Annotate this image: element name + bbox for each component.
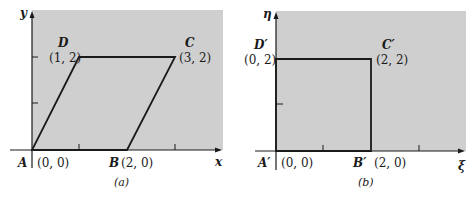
- vertex-d-prime-coord: (0, 2): [244, 53, 276, 67]
- vertex-b-prime-name: B′: [352, 156, 367, 170]
- figure-b: η ξ A′ (0, 0) B′ (2, 0) C′ (2, 2) D′ (0,…: [244, 7, 466, 189]
- vertex-b-coord: (2, 0): [121, 156, 153, 170]
- vertex-d-name: D: [57, 36, 69, 50]
- figure-b-caption: (b): [358, 176, 374, 189]
- vertex-a-name: A: [17, 156, 27, 170]
- vertex-d-coord: (1, 2): [49, 51, 81, 65]
- vertex-a-coord: (0, 0): [37, 156, 69, 170]
- figure-b-xi-label: ξ: [458, 159, 466, 173]
- vertex-c-coord: (3, 2): [179, 51, 211, 65]
- vertex-a-prime-name: A′: [257, 156, 271, 170]
- vertex-b-name: B: [108, 156, 119, 170]
- figure-a-caption: (a): [114, 176, 129, 189]
- vertex-c-prime-name: C′: [382, 38, 396, 52]
- figure-a: y x A (0, 0) B (2, 0) C (3, 2) D (1, 2) …: [10, 6, 223, 189]
- figure-b-eta-label: η: [263, 7, 272, 21]
- vertex-c-prime-coord: (2, 2): [376, 53, 408, 67]
- figure-a-background: [32, 10, 223, 150]
- figure-a-y-label: y: [19, 6, 28, 20]
- diagram-canvas: y x A (0, 0) B (2, 0) C (3, 2) D (1, 2) …: [0, 0, 476, 203]
- vertex-d-prime-name: D′: [253, 38, 268, 52]
- vertex-b-prime-coord: (2, 0): [374, 156, 406, 170]
- figure-a-x-label: x: [214, 155, 223, 169]
- vertex-a-prime-coord: (0, 0): [281, 156, 313, 170]
- vertex-c-name: C: [185, 36, 195, 50]
